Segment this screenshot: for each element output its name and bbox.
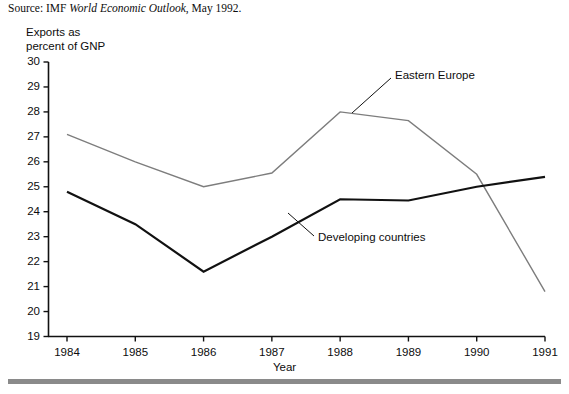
- y-axis-tick-label: 27: [14, 130, 40, 142]
- bottom-rule: [8, 379, 561, 384]
- series-label-eastern-europe: Eastern Europe: [395, 69, 475, 81]
- line-chart: Exports as percent of GNP 19202122232425…: [0, 0, 569, 394]
- y-axis-tick-label: 23: [14, 230, 40, 242]
- series-line-developing-countries: [67, 177, 545, 272]
- y-axis-tick-label: 21: [14, 280, 40, 292]
- y-axis-tick-label: 22: [14, 255, 40, 267]
- x-axis-tick-label: 1989: [378, 346, 438, 358]
- axes: [48, 62, 545, 337]
- x-axis-tick-label: 1988: [310, 346, 370, 358]
- series-line-eastern-europe: [67, 112, 545, 292]
- x-axis-tick-label: 1991: [515, 346, 569, 358]
- y-axis-tick-label: 29: [14, 80, 40, 92]
- series-label-developing-countries: Developing countries: [318, 231, 425, 243]
- x-axis-tick-label: 1987: [242, 346, 302, 358]
- y-axis-tick-label: 30: [14, 55, 40, 67]
- x-axis-tick-label: 1986: [174, 346, 234, 358]
- annotation-leader-lines: [288, 78, 391, 236]
- data-series-group: [67, 112, 545, 292]
- y-axis-tick-label: 19: [14, 330, 40, 342]
- y-axis-tick-label: 26: [14, 155, 40, 167]
- y-axis-tick-label: 25: [14, 180, 40, 192]
- leader-line: [352, 78, 391, 113]
- y-axis-tick-label: 20: [14, 305, 40, 317]
- x-axis-tick-label: 1984: [37, 346, 97, 358]
- y-axis-tick-label: 24: [14, 205, 40, 217]
- x-axis-tick-label: 1985: [105, 346, 165, 358]
- x-axis-title: Year: [0, 361, 569, 373]
- x-axis-tick-label: 1990: [447, 346, 507, 358]
- y-axis-tick-label: 28: [14, 105, 40, 117]
- plot-canvas: [0, 0, 569, 394]
